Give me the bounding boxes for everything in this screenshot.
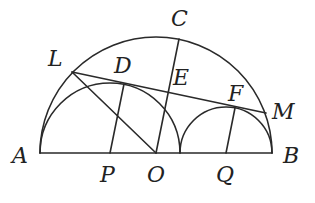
label-o: O (147, 162, 165, 187)
label-m: M (271, 99, 295, 124)
left-semicircle (40, 83, 180, 153)
right-semicircle (180, 107, 272, 153)
label-p: P (99, 162, 116, 187)
label-d: D (113, 53, 132, 78)
label-q: Q (216, 162, 234, 187)
segment-qf (226, 108, 235, 153)
label-f: F (227, 81, 244, 106)
label-e: E (172, 65, 189, 90)
label-c: C (171, 6, 188, 31)
segment-lo (72, 72, 156, 153)
label-b: B (282, 143, 299, 168)
label-a: A (10, 143, 28, 168)
geometry-diagram: C L D E F M A B P O Q (0, 0, 315, 203)
segment-pd (110, 84, 124, 153)
label-l: L (47, 46, 63, 71)
segment-oc (156, 39, 179, 153)
